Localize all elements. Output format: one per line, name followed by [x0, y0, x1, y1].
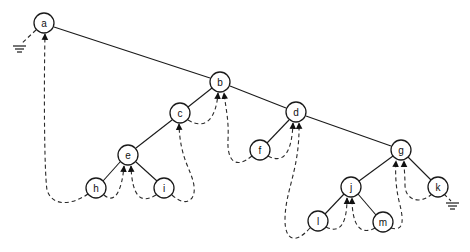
- node-label: b: [217, 77, 223, 88]
- edge-e-i: [136, 162, 157, 181]
- node-m: m: [373, 212, 393, 232]
- node-h: h: [86, 178, 106, 198]
- thread-f-b: [224, 93, 252, 163]
- tree-edges: [54, 27, 431, 215]
- ground-icon: [446, 203, 459, 209]
- node-e: e: [118, 145, 138, 165]
- edge-g-k: [408, 157, 431, 180]
- thread-links: [44, 34, 432, 238]
- node-k: k: [428, 177, 448, 197]
- edge-c-e: [136, 120, 172, 148]
- node-label: d: [293, 107, 299, 118]
- node-b: b: [210, 72, 230, 92]
- edge-d-f: [267, 120, 289, 143]
- edge-g-j: [359, 156, 393, 181]
- node-j: j: [341, 177, 361, 197]
- node-label: h: [93, 183, 99, 194]
- node-label: l: [317, 216, 319, 227]
- node-label: i: [163, 183, 165, 194]
- node-d: d: [286, 102, 306, 122]
- node-g: g: [391, 140, 411, 160]
- edge-b-d: [230, 86, 286, 108]
- node-i: i: [154, 178, 174, 198]
- thread-c-b: [188, 93, 218, 124]
- edge-e-h: [103, 162, 120, 181]
- null-link-k: [444, 194, 459, 209]
- node-c: c: [170, 103, 190, 123]
- thread-i-c: [172, 124, 194, 202]
- thread-m-j: [352, 198, 375, 231]
- edge-j-m: [358, 194, 376, 215]
- edge-d-g: [306, 116, 391, 146]
- node-f: f: [250, 140, 270, 160]
- node-label: e: [125, 150, 131, 161]
- null-link-a: [13, 30, 36, 52]
- edge-j-l: [325, 194, 344, 214]
- thread-h-a: [44, 34, 88, 203]
- ground-icon: [13, 46, 26, 52]
- edge-a-b: [54, 27, 210, 78]
- threaded-tree-diagram: a b c d e f g h i j k l m: [0, 0, 470, 252]
- node-label: m: [379, 217, 387, 228]
- edge-b-c: [188, 88, 212, 107]
- node-label: g: [398, 145, 404, 156]
- node-label: f: [259, 145, 262, 156]
- node-a: a: [34, 13, 54, 33]
- node-l: l: [308, 211, 328, 231]
- thread-i-e: [131, 166, 156, 199]
- node-label: c: [178, 108, 183, 119]
- node-label: j: [349, 182, 352, 193]
- node-label: a: [41, 18, 47, 29]
- thread-h-e: [104, 166, 124, 198]
- thread-l-d: [285, 123, 310, 238]
